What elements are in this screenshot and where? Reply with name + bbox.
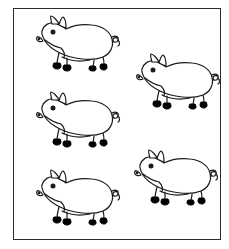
eye	[149, 164, 153, 168]
foreleg	[57, 207, 59, 218]
curly-tail	[112, 190, 118, 196]
picture-frame	[13, 8, 221, 240]
hoof	[200, 102, 207, 108]
nostril	[38, 38, 40, 40]
foreleg	[57, 129, 59, 140]
body	[42, 177, 113, 214]
hoof	[53, 139, 61, 145]
curly-tail-tip	[118, 194, 120, 200]
hoof	[100, 218, 107, 224]
curly-tail-tip	[118, 116, 120, 122]
hoof	[161, 199, 169, 205]
body	[42, 23, 113, 60]
nostril	[138, 76, 140, 78]
body	[140, 157, 211, 194]
curly-tail-tip	[216, 174, 218, 180]
curly-tail-tip	[118, 40, 120, 46]
body	[142, 61, 213, 98]
hoof	[163, 103, 171, 109]
pig-top-left	[28, 15, 120, 71]
hoof	[89, 142, 96, 147]
ear-back	[51, 16, 59, 24]
ear-back	[151, 54, 159, 62]
foreleg	[57, 53, 59, 64]
hoof	[89, 66, 96, 71]
hoof	[153, 101, 161, 107]
pig-bottom-left	[28, 169, 120, 225]
hoof	[63, 65, 71, 71]
hoof	[53, 63, 61, 69]
hoof	[63, 141, 71, 147]
pig-lower-right	[126, 149, 218, 205]
eye	[51, 106, 55, 110]
nostril	[38, 192, 40, 194]
curly-tail	[210, 170, 216, 176]
hoof	[100, 64, 107, 70]
hoof	[189, 104, 196, 109]
body	[42, 99, 113, 136]
hoof	[100, 140, 107, 146]
curly-tail	[112, 36, 118, 42]
eye	[51, 184, 55, 188]
foreleg	[157, 91, 159, 102]
drawing-canvas	[0, 0, 229, 249]
hoof	[89, 220, 96, 225]
foreleg	[155, 187, 157, 198]
eye	[151, 68, 155, 72]
ear-back	[149, 150, 157, 158]
pig-middle-left	[28, 91, 120, 147]
curly-tail-tip	[218, 78, 220, 84]
hoof	[187, 200, 194, 205]
hoof	[151, 197, 159, 203]
hoof	[53, 217, 61, 223]
eye	[51, 30, 55, 34]
hoof	[63, 219, 71, 225]
ear-back	[51, 92, 59, 100]
nostril	[136, 172, 138, 174]
pig-upper-right	[128, 53, 220, 109]
ear-back	[51, 170, 59, 178]
curly-tail	[112, 112, 118, 118]
hoof	[198, 198, 205, 204]
curly-tail	[212, 74, 218, 80]
nostril	[38, 114, 40, 116]
